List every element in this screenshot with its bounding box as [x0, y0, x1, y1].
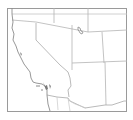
map-frame [8, 9, 127, 112]
map-svg[interactable] [0, 0, 133, 120]
map-container [0, 0, 133, 120]
